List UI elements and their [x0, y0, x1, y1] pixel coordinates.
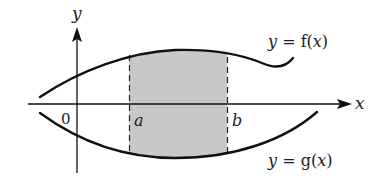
- curve-g-label-paren-close: ): [326, 151, 332, 170]
- y-axis: [72, 27, 82, 173]
- curve-f-label: y = f(x): [267, 32, 328, 51]
- bound-b-label: b: [232, 111, 242, 130]
- curve-f-label-arg: x: [313, 32, 322, 51]
- curve-g-label-func: g: [301, 151, 311, 170]
- origin-label: 0: [61, 110, 71, 128]
- curve-g-label: y = g(x): [267, 151, 332, 170]
- bound-a-label: a: [134, 111, 144, 130]
- y-axis-label: y: [71, 3, 82, 23]
- curve-f-label-paren-close: ): [322, 32, 328, 51]
- curve-g-label-eq: =: [277, 151, 301, 170]
- curve-f-label-eq: =: [277, 32, 301, 51]
- curve-g-label-arg: x: [317, 151, 326, 170]
- x-axis-label: x: [355, 93, 365, 113]
- area-between-curves-diagram: y x 0 a b y = f(x) y = g(x): [0, 0, 382, 187]
